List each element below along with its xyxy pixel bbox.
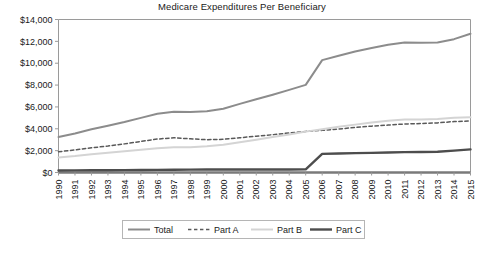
legend-label-part-a: Part A [214,225,239,235]
y-tick-label: $12,000 [20,37,53,47]
y-tick-label: $4,000 [25,124,53,134]
chart-container: Medicare Expenditures Per Beneficiary $0… [0,0,484,256]
chart-plot-svg: $0$2,000$4,000$6,000$8,000$10,000$12,000… [0,0,484,256]
x-tick-label: 2003 [268,180,278,200]
x-tick-label: 1994 [120,180,130,200]
legend-group: TotalPart APart BPart C [123,221,365,239]
x-tick-label: 1996 [153,180,163,200]
legend-label-part-c: Part C [336,225,362,235]
x-tick-label: 2012 [416,180,426,200]
legend-label-total: Total [154,225,173,235]
x-tick-label: 1990 [54,180,64,200]
x-tick-label: 2009 [367,180,377,200]
x-tick-label: 2000 [219,180,229,200]
x-tick-label: 2004 [284,180,294,200]
x-tick-label: 2008 [350,180,360,200]
x-tick-label: 2002 [251,180,261,200]
x-tick-label: 2013 [433,180,443,200]
y-tick-label: $8,000 [25,80,53,90]
x-tick-label: 2014 [449,180,459,200]
y-tick-label: $2,000 [25,146,53,156]
x-tick-label: 2015 [466,180,476,200]
x-tick-label: 2007 [334,180,344,200]
x-tick-label: 2001 [235,180,245,200]
x-tick-label: 1997 [169,180,179,200]
x-tick-label: 1991 [70,180,80,200]
x-tick-label: 1995 [136,180,146,200]
x-axis-group: 1990199119921993199419951996199719981999… [54,173,476,200]
x-tick-label: 2011 [400,180,410,199]
x-tick-label: 1999 [202,180,212,200]
legend-label-part-b: Part B [277,225,302,235]
y-tick-label: $0 [42,168,52,178]
y-tick-label: $14,000 [20,15,53,25]
x-tick-label: 2010 [383,180,393,200]
x-tick-label: 2005 [301,180,311,200]
y-tick-label: $6,000 [25,102,53,112]
x-tick-label: 1993 [103,180,113,200]
x-tick-label: 2006 [317,180,327,200]
y-tick-label: $10,000 [20,58,53,68]
x-tick-label: 1992 [87,180,97,200]
x-tick-label: 1998 [186,180,196,200]
